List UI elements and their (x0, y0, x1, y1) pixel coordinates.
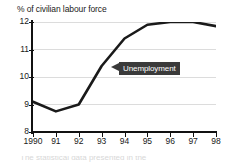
unemployment-line-chart: % of civilian labour force 89101112 1990… (0, 0, 226, 162)
chart-title: % of civilian labour force (17, 4, 107, 14)
x-tick-mark (79, 133, 80, 137)
x-tick-label: 94 (120, 136, 129, 146)
x-tick-label: 98 (211, 136, 220, 146)
plot-area (33, 22, 216, 132)
x-tick-mark (170, 133, 171, 137)
x-tick-label: 1990 (24, 136, 43, 146)
y-tick-mark (29, 105, 34, 106)
unemployment-series-line (33, 22, 216, 132)
x-tick-mark (102, 133, 103, 137)
annotation-unemployment-label: Unemployment (119, 62, 180, 75)
x-tick-label: 95 (143, 136, 152, 146)
x-tick-label: 96 (166, 136, 175, 146)
x-tick-label: 92 (74, 136, 83, 146)
x-tick-mark (193, 133, 194, 137)
x-axis-tick-labels: 19909192939495969798 (0, 136, 226, 150)
annotation-arrow-icon (111, 63, 119, 71)
x-tick-mark (33, 133, 34, 137)
y-tick-label: 11 (20, 44, 29, 54)
clipped-caption-text: The statistical data presented in the (20, 156, 146, 162)
x-tick-mark (125, 133, 126, 137)
y-tick-label: 9 (24, 99, 29, 109)
x-tick-label: 93 (97, 136, 106, 146)
y-tick-mark (29, 50, 34, 51)
x-tick-label: 91 (51, 136, 60, 146)
x-tick-label: 97 (188, 136, 197, 146)
clipped-caption: The statistical data presented in the (0, 156, 226, 162)
y-tick-mark (29, 77, 34, 78)
y-tick-label: 12 (20, 16, 29, 26)
y-tick-mark (29, 22, 34, 23)
x-tick-mark (216, 133, 217, 137)
y-tick-label: 8 (24, 126, 29, 136)
y-tick-label: 10 (20, 71, 29, 81)
x-tick-mark (147, 133, 148, 137)
x-tick-mark (56, 133, 57, 137)
